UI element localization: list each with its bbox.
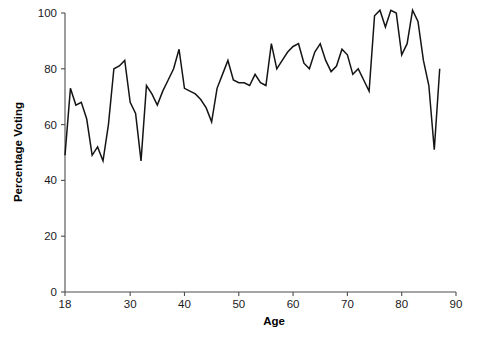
y-axis-ticks: 020406080100 (38, 7, 65, 298)
line-chart-canvas: 020406080100 1830405060708090 Age Percen… (0, 0, 477, 339)
y-axis-title: Percentage Voting (12, 102, 24, 202)
data-series-group (65, 10, 440, 161)
data-series-line (65, 10, 440, 161)
x-tick-label: 70 (341, 298, 354, 310)
x-axis-ticks: 1830405060708090 (59, 292, 463, 310)
y-tick-label: 0 (51, 286, 57, 298)
y-tick-label: 60 (44, 119, 57, 131)
x-tick-label: 90 (450, 298, 463, 310)
x-tick-label: 80 (395, 298, 408, 310)
x-tick-label: 60 (287, 298, 300, 310)
x-tick-label: 50 (232, 298, 245, 310)
x-tick-label: 18 (59, 298, 72, 310)
x-axis: 1830405060708090 (59, 292, 463, 310)
y-tick-label: 100 (38, 7, 57, 19)
x-tick-label: 30 (124, 298, 137, 310)
x-axis-title: Age (263, 315, 285, 327)
chart-figure: 020406080100 1830405060708090 Age Percen… (0, 0, 477, 339)
y-tick-label: 40 (44, 174, 57, 186)
x-tick-label: 40 (178, 298, 191, 310)
y-tick-label: 80 (44, 63, 57, 75)
y-axis: 020406080100 (38, 7, 65, 298)
y-tick-label: 20 (44, 230, 57, 242)
